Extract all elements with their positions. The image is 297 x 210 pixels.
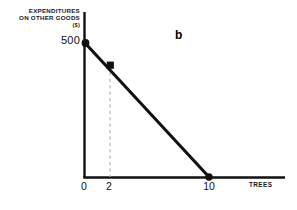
x-tick-label-2: 2	[99, 180, 119, 192]
plot-area	[0, 0, 297, 210]
x-tick-label-0: 0	[74, 180, 94, 192]
chart-figure: EXPENDITURES ON OTHER GOODS ($) 500 b 0 …	[0, 0, 297, 210]
x-axis-title: TREES	[249, 181, 272, 188]
budget-constraint-line	[85, 43, 209, 177]
vertical-intercept-marker	[82, 39, 90, 47]
chosen-bundle-marker	[107, 62, 114, 69]
x-tick-label-10: 10	[199, 180, 219, 192]
